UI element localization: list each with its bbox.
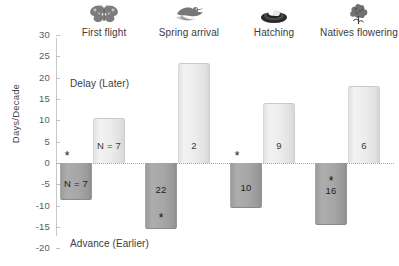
bar-group: Hatching*109 — [230, 0, 318, 266]
advance-bar-label: N = 7 — [61, 178, 91, 189]
advance-bar[interactable]: *22 — [145, 163, 177, 229]
delay-bar[interactable]: 2 — [178, 63, 210, 163]
y-tick-label: 25 — [0, 50, 58, 62]
bar-group: Spring arrival*222 — [145, 0, 233, 266]
delay-bar[interactable]: 9 — [263, 103, 295, 163]
y-tick-label: -20 — [0, 242, 58, 254]
advance-bar[interactable]: *16 — [315, 163, 347, 225]
bird-icon — [172, 2, 206, 26]
category-label: First flight — [82, 27, 127, 38]
footer-cutoff-text — [0, 260, 399, 266]
delay-bar-label: 2 — [179, 140, 209, 151]
nest-egg-icon — [257, 2, 291, 26]
significance-marker: * — [146, 214, 176, 222]
y-tick-label: 30 — [0, 29, 58, 41]
advance-bar[interactable]: *10 — [230, 163, 262, 208]
y-tick-label: -10 — [0, 200, 58, 212]
bar-group: First flight*N = 7N = 7 — [60, 0, 148, 266]
y-tick-label: 15 — [0, 93, 58, 105]
category-label: Hatching — [254, 27, 294, 38]
y-tick-label: 0 — [0, 157, 58, 169]
y-tick-label: 20 — [0, 72, 58, 84]
delay-bar-label: N = 7 — [94, 140, 124, 151]
y-tick-label: 5 — [0, 136, 58, 148]
bar-group: Natives flowering*166 — [315, 0, 399, 266]
butterfly-icon — [87, 2, 121, 26]
delay-bar[interactable]: N = 7 — [93, 118, 125, 163]
y-tick-label: -15 — [0, 221, 58, 233]
delay-bar[interactable]: 6 — [348, 86, 380, 163]
category-label: Spring arrival — [159, 27, 219, 38]
category-label: Natives flowering — [320, 27, 398, 38]
significance-marker: * — [52, 152, 82, 160]
y-tick-label: -5 — [0, 178, 58, 190]
delay-bar-label: 6 — [349, 140, 379, 151]
delay-bar-label: 9 — [264, 140, 294, 151]
advance-bar-label: 16 — [316, 185, 346, 196]
advance-bar[interactable]: *N = 7 — [60, 163, 92, 200]
phenology-bar-chart: Days/Decade 302520151050-5-10-15-20 Dela… — [0, 0, 399, 266]
flower-icon — [342, 2, 376, 26]
significance-marker: * — [316, 177, 346, 185]
advance-bar-label: 22 — [146, 184, 176, 195]
significance-marker: * — [222, 152, 252, 160]
advance-bar-label: 10 — [231, 182, 261, 193]
y-tick-label: 10 — [0, 114, 58, 126]
